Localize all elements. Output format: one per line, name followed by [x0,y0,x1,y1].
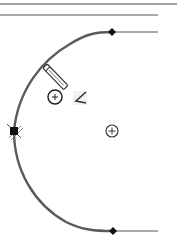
sketch-arc[interactable] [14,32,112,231]
pencil-icon [43,64,68,90]
sketch-canvas[interactable] [0,0,177,238]
circle-plus-cursor-icon [48,90,62,104]
diamond-endpoint-icon[interactable] [109,227,117,235]
circle-plus-center-icon[interactable] [106,125,118,137]
angle-constraint-icon [73,91,87,105]
diamond-endpoint-icon[interactable] [108,28,116,36]
